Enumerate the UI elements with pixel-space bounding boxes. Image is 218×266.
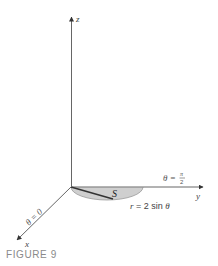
x-axis-label: x [24,239,29,249]
svg-text:2: 2 [180,179,184,185]
y-axis-label: y [195,191,200,201]
figure-diagram: z y x θ = π 2 θ = 0 S r = 2 sin θ [0,0,218,266]
z-axis-label: z [75,14,80,24]
svg-text:π: π [180,171,184,177]
theta-zero-label: θ = 0 [23,206,44,227]
theta-half-pi-label: θ = π 2 [163,171,185,185]
region-s-label: S [112,188,117,199]
svg-text:θ =: θ = [163,173,176,183]
curve-equation-label: r = 2 sin θ [130,201,170,211]
figure-caption: FIGURE 9 [6,249,57,260]
